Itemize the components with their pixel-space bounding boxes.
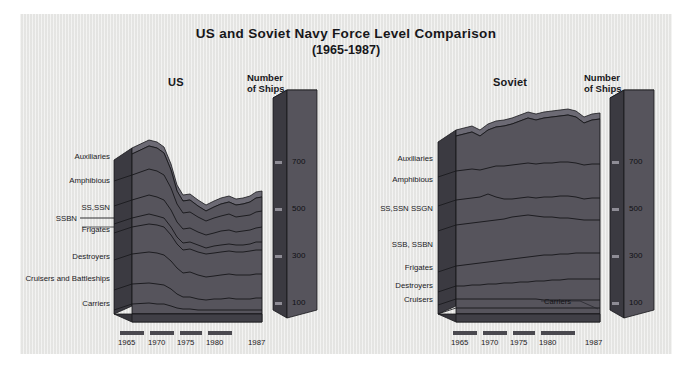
screenshot-root: US and Soviet Navy Force Level Compariso… [0, 0, 696, 370]
soviet-year-dash-4 [541, 331, 575, 335]
soviet-year-dash-3 [513, 331, 535, 335]
us-year-label-1987: 1987 [248, 338, 265, 347]
us-year-dash-2 [150, 331, 174, 335]
us-year-label-1975: 1975 [177, 338, 194, 347]
figure-panel: US and Soviet Navy Force Level Compariso… [20, 14, 672, 354]
us-year-label-1970: 1970 [148, 338, 165, 347]
soviet-year-label-1965: 1965 [451, 338, 468, 347]
soviet-chart-block: Soviet Number of Ships Auxiliaries Amphi… [348, 14, 672, 354]
soviet-year-label-1987: 1987 [585, 338, 602, 347]
us-year-dash-4 [208, 331, 232, 335]
us-year-dash-1 [120, 331, 144, 335]
us-year-label-1980: 1980 [206, 338, 223, 347]
soviet-year-label-1975: 1975 [510, 338, 527, 347]
us-year-axis [20, 14, 330, 354]
soviet-year-dash-1 [453, 331, 477, 335]
soviet-year-label-1970: 1970 [481, 338, 498, 347]
soviet-year-dash-2 [483, 331, 507, 335]
soviet-year-axis [348, 14, 672, 354]
us-chart-block: US Number of Ships Auxiliaries Amphibiou… [20, 14, 330, 354]
us-year-dash-3 [180, 331, 202, 335]
soviet-year-label-1980: 1980 [539, 338, 556, 347]
us-year-label-1965: 1965 [118, 338, 135, 347]
